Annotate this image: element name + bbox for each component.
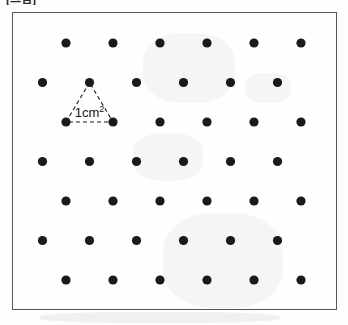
lattice-dot [155,196,164,205]
caption-fragment: [그림] [6,0,50,5]
lattice-dot [296,196,305,205]
lattice-dot [296,117,305,126]
lattice-dot [296,275,305,284]
lattice-dot [226,157,235,166]
lattice-dot [249,275,258,284]
lattice-dot [249,117,258,126]
lattice-dot [61,38,70,47]
lattice-dot [296,38,305,47]
lattice-dot [179,236,188,245]
lattice-dot [108,196,117,205]
lattice-dot [38,78,47,87]
lattice-dot [61,196,70,205]
lattice-dot [85,236,94,245]
lattice-dot [226,236,235,245]
lattice-dot [155,38,164,47]
lattice-dot [273,78,282,87]
lattice-dot [249,38,258,47]
lattice-dot [108,275,117,284]
unit-triangle-label: 1cm2 [75,104,105,120]
lattice-dot [155,275,164,284]
lattice-dot [179,157,188,166]
lattice-dot [226,78,235,87]
unit-triangle-label-superscript: 2 [99,104,104,114]
lattice-dot [85,157,94,166]
lattice-dot [132,78,141,87]
lattice-dot [202,196,211,205]
lattice-dot [202,38,211,47]
lattice-dot [38,236,47,245]
lattice-dot [273,157,282,166]
lattice-dot [108,38,117,47]
dot-lattice-canvas: 1cm2 [13,13,338,311]
lattice-dot [273,236,282,245]
lattice-dot [179,78,188,87]
lattice-dots [38,38,306,284]
figure-frame: 1cm2 [12,12,337,310]
scan-artifact [40,312,280,323]
lattice-dot [61,275,70,284]
lattice-dot [38,157,47,166]
unit-triangle-label-group: 1cm2 [75,104,105,120]
lattice-dot [202,117,211,126]
unit-triangle-label-text: 1cm [75,105,100,120]
lattice-dot [132,157,141,166]
lattice-dot [155,117,164,126]
lattice-dot [132,236,141,245]
lattice-dot [249,196,258,205]
lattice-dot [202,275,211,284]
